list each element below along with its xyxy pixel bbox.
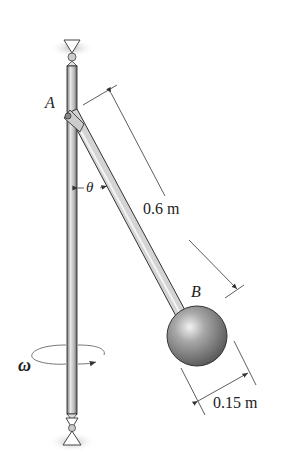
top-bearing-icon	[50, 39, 94, 61]
ball-b	[167, 306, 227, 366]
label-a: A	[45, 94, 55, 112]
bottom-bearing-icon	[48, 418, 96, 452]
label-omega: ω	[18, 355, 31, 376]
rod-length-dimension	[83, 85, 244, 298]
label-ball-diameter: 0.15 m	[213, 394, 257, 412]
label-b: B	[191, 283, 201, 301]
label-rod-length: 0.6 m	[143, 200, 179, 218]
label-theta: θ	[86, 179, 93, 196]
